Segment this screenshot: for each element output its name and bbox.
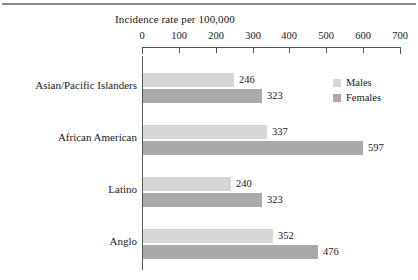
y-axis-category-labels: Asian/Pacific Islanders African American… [0, 56, 142, 270]
x-tick-mark-500 [326, 47, 327, 53]
x-tick-label-200: 200 [208, 30, 224, 41]
bar-anglo-females [143, 245, 318, 259]
page-top-rule [2, 3, 416, 5]
legend-label-females: Females [346, 92, 381, 103]
category-label-anglo: Anglo [6, 235, 142, 247]
x-axis-left-cap [142, 47, 143, 54]
bar-value-latino-males: 240 [231, 177, 252, 191]
bar-value-african-american-males: 337 [267, 125, 288, 139]
bar-anglo-males [143, 229, 273, 243]
x-tick-mark-100 [179, 47, 180, 53]
legend-swatch-females-icon [333, 94, 341, 102]
bar-latino-males [143, 177, 231, 191]
bar-value-anglo-females: 476 [318, 245, 339, 259]
bar-african-american-males [143, 125, 267, 139]
category-label-asian-pacific-islanders: Asian/Pacific Islanders [6, 79, 142, 91]
bar-value-asian-pacific-islanders-females: 323 [262, 89, 283, 103]
bar-asian-pacific-islanders-males [143, 73, 234, 87]
x-axis-tick-labels: 0 100 200 300 400 500 600 700 [142, 30, 400, 44]
category-label-african-american: African American [6, 131, 142, 143]
x-tick-mark-200 [216, 47, 217, 53]
chart-figure: Incidence rate per 100,000 0 100 200 300… [0, 0, 418, 280]
bar-african-american-females [143, 141, 363, 155]
category-label-latino: Latino [6, 183, 142, 195]
x-tick-label-300: 300 [245, 30, 261, 41]
bar-value-african-american-females: 597 [363, 141, 384, 155]
x-tick-mark-300 [253, 47, 254, 53]
bar-value-anglo-males: 352 [273, 229, 294, 243]
legend-label-males: Males [346, 77, 372, 88]
x-axis-right-cap [400, 47, 401, 54]
x-tick-label-0: 0 [139, 30, 144, 41]
legend-item-females: Females [333, 91, 413, 104]
x-tick-label-600: 600 [355, 30, 371, 41]
x-tick-mark-400 [289, 47, 290, 53]
x-tick-label-500: 500 [318, 30, 334, 41]
chart-legend: Males Females [333, 76, 413, 106]
x-tick-mark-600 [363, 47, 364, 53]
x-axis-line [142, 47, 400, 48]
x-tick-label-100: 100 [171, 30, 187, 41]
bar-value-latino-females: 323 [262, 193, 283, 207]
bar-value-asian-pacific-islanders-males: 246 [234, 73, 255, 87]
x-tick-label-700: 700 [392, 30, 408, 41]
bar-latino-females [143, 193, 262, 207]
x-tick-label-400: 400 [281, 30, 297, 41]
chart-title: Incidence rate per 100,000 [0, 13, 350, 25]
legend-item-males: Males [333, 76, 413, 89]
legend-swatch-males-icon [333, 79, 341, 87]
bar-asian-pacific-islanders-females [143, 89, 262, 103]
